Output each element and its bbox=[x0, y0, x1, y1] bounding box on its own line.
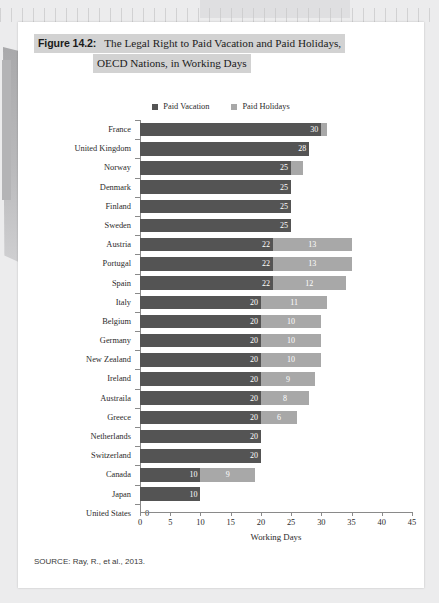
bar-row: Portugal2213 bbox=[140, 254, 412, 273]
category-label: United States bbox=[86, 504, 131, 523]
bar-segment-paid-vacation: 25 bbox=[140, 161, 291, 175]
x-axis-tick bbox=[321, 512, 322, 516]
scan-artifact-page-edge bbox=[2, 60, 11, 200]
bar-chart: France30United Kingdom28Norway25Denmark2… bbox=[18, 120, 424, 520]
category-label: Belgium bbox=[102, 312, 131, 331]
bar-segment-paid-vacation: 25 bbox=[140, 200, 291, 214]
category-label: Switzerland bbox=[91, 446, 131, 465]
y-axis-tick bbox=[135, 369, 140, 370]
y-axis-tick bbox=[135, 485, 140, 486]
figure-page: Figure 14.2:The Legal Right to Paid Vaca… bbox=[18, 22, 424, 588]
x-axis-line: 051015202530354045 bbox=[140, 512, 412, 513]
category-label: Austria bbox=[106, 235, 131, 254]
bar-row: Canada109 bbox=[140, 465, 412, 484]
bar-row: France30 bbox=[140, 120, 412, 139]
bar-segment-paid-vacation: 25 bbox=[140, 219, 291, 233]
bar-row: Italy2011 bbox=[140, 293, 412, 312]
category-label: Finland bbox=[105, 197, 131, 216]
bar-segment-paid-holidays: 13 bbox=[273, 238, 352, 252]
bar-segment-paid-vacation: 22 bbox=[140, 238, 273, 252]
bar-row: United Kingdom28 bbox=[140, 139, 412, 158]
bar-segment-paid-vacation: 22 bbox=[140, 257, 273, 271]
bar-segment-paid-vacation: 20 bbox=[140, 372, 261, 386]
bar-row: Austraila208 bbox=[140, 389, 412, 408]
legend-label-paid-holidays: Paid Holidays bbox=[242, 102, 289, 111]
bar-row: Austria2213 bbox=[140, 235, 412, 254]
figure-number: Figure 14.2: bbox=[38, 37, 96, 49]
figure-caption-line-1: Figure 14.2:The Legal Right to Paid Vaca… bbox=[34, 34, 345, 53]
bar-segment-paid-vacation: 20 bbox=[140, 391, 261, 405]
bar-row: Belgium2010 bbox=[140, 312, 412, 331]
bar-segment-paid-holidays bbox=[321, 123, 327, 137]
bar-row: United States0 bbox=[140, 504, 412, 523]
bar-segment-paid-vacation: 20 bbox=[140, 353, 261, 367]
bar-row: Netherlands20 bbox=[140, 427, 412, 446]
category-label: Greece bbox=[107, 408, 131, 427]
category-label: Portugal bbox=[103, 254, 131, 273]
category-label: New Zealand bbox=[86, 350, 131, 369]
x-axis-tick-label: 40 bbox=[378, 518, 386, 527]
category-label: Italy bbox=[116, 293, 131, 312]
bar-segment-paid-vacation: 20 bbox=[140, 315, 261, 329]
y-axis-tick bbox=[135, 293, 140, 294]
bar-row: Sweden25 bbox=[140, 216, 412, 235]
bar-segment-paid-holidays: 13 bbox=[273, 257, 352, 271]
bar-segment-paid-vacation: 20 bbox=[140, 411, 261, 425]
category-label: Spain bbox=[112, 274, 131, 293]
x-axis-tick-label: 45 bbox=[408, 518, 416, 527]
bar-row: Germany2010 bbox=[140, 331, 412, 350]
bar-segment-paid-vacation: 10 bbox=[140, 487, 200, 501]
category-label: Netherlands bbox=[91, 427, 131, 446]
plot-area: France30United Kingdom28Norway25Denmark2… bbox=[140, 120, 412, 512]
category-label: France bbox=[108, 120, 131, 139]
x-axis-tick-label: 5 bbox=[168, 518, 172, 527]
x-axis-tick bbox=[382, 512, 383, 516]
y-axis-tick bbox=[135, 197, 140, 198]
x-axis-title: Working Days bbox=[140, 532, 412, 542]
bar-row: Switzerland20 bbox=[140, 446, 412, 465]
bar-row: Spain2212 bbox=[140, 274, 412, 293]
source-note: SOURCE: Ray, R., et al., 2013. bbox=[34, 557, 145, 566]
x-axis-tick-label: 15 bbox=[226, 518, 234, 527]
bar-segment-paid-holidays: 10 bbox=[261, 315, 321, 329]
bar-value-label-zero: 0 bbox=[140, 509, 149, 518]
bar-row: Denmark25 bbox=[140, 178, 412, 197]
y-axis-tick bbox=[135, 465, 140, 466]
category-label: Norway bbox=[104, 158, 131, 177]
y-axis-tick bbox=[135, 216, 140, 217]
bar-row: New Zealand2010 bbox=[140, 350, 412, 369]
x-axis-tick bbox=[231, 512, 232, 516]
y-axis-tick bbox=[135, 139, 140, 140]
figure-title-line-2: OECD Nations, in Working Days bbox=[93, 54, 251, 73]
category-label: Germany bbox=[100, 331, 131, 350]
bar-row: Finland25 bbox=[140, 197, 412, 216]
y-axis-tick bbox=[135, 178, 140, 179]
y-axis-tick bbox=[135, 312, 140, 313]
bar-segment-paid-vacation: 28 bbox=[140, 142, 309, 156]
legend-item-paid-vacation: Paid Vacation bbox=[152, 102, 209, 111]
category-label: Austraila bbox=[100, 389, 131, 408]
y-axis-tick bbox=[135, 408, 140, 409]
y-axis-tick bbox=[135, 331, 140, 332]
y-axis-tick bbox=[135, 504, 140, 505]
x-axis-tick bbox=[352, 512, 353, 516]
legend-swatch-icon-paid-holidays bbox=[231, 104, 237, 110]
scan-artifact-ruler bbox=[0, 8, 439, 22]
bar-segment-paid-holidays: 10 bbox=[261, 334, 321, 348]
bar-row: Greece206 bbox=[140, 408, 412, 427]
bar-segment-paid-holidays: 9 bbox=[200, 468, 254, 482]
category-label: Japan bbox=[112, 485, 131, 504]
bar-segment-paid-vacation: 20 bbox=[140, 296, 261, 310]
y-axis-tick bbox=[135, 274, 140, 275]
x-axis-tick-label: 20 bbox=[257, 518, 265, 527]
x-axis-tick bbox=[261, 512, 262, 516]
y-axis-tick bbox=[135, 158, 140, 159]
bar-segment-paid-holidays: 6 bbox=[261, 411, 297, 425]
bar-segment-paid-vacation: 10 bbox=[140, 468, 200, 482]
category-label: United Kingdom bbox=[74, 139, 131, 158]
x-axis-tick-label: 30 bbox=[317, 518, 325, 527]
bar-segment-paid-holidays bbox=[291, 161, 303, 175]
y-axis-tick bbox=[135, 446, 140, 447]
x-axis-tick bbox=[291, 512, 292, 516]
bar-segment-paid-holidays: 12 bbox=[273, 276, 346, 290]
